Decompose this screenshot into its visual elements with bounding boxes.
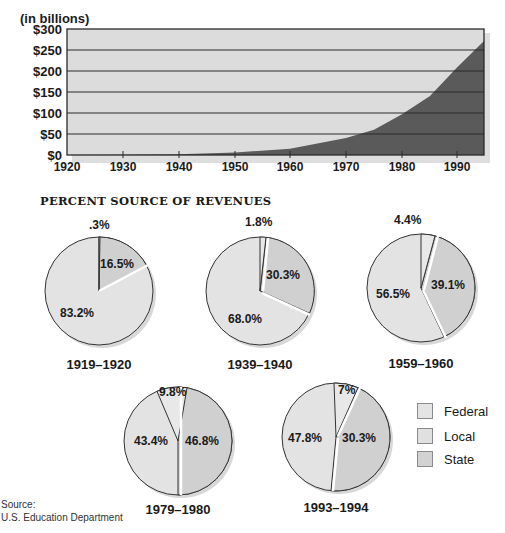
source-name: U.S. Education Department [1, 511, 123, 524]
legend-label-state: State [444, 452, 474, 467]
pie2-year: 1939–1940 [210, 357, 310, 372]
pie3-federal-label: 4.4% [394, 213, 421, 227]
source-label: Source: [1, 498, 123, 511]
pie4-state-label: 46.8% [185, 434, 219, 448]
pie3-local-label: 56.5% [376, 287, 410, 301]
pie2-federal-label: 1.8% [245, 215, 272, 229]
legend-swatch-federal [417, 403, 433, 419]
pie5-federal-label: 7% [338, 383, 355, 397]
pie5-year: 1993–1994 [286, 500, 386, 515]
pie1-year: 1919–1920 [49, 357, 149, 372]
legend-label-local: Local [444, 429, 475, 444]
pie2-local-label: 68.0% [228, 312, 262, 326]
pie2-state-label: 30.3% [266, 268, 300, 282]
source-note: Source: U.S. Education Department [1, 498, 123, 524]
pie3-state-label: 39.1% [431, 278, 465, 292]
pie5-local-label: 47.8% [288, 431, 322, 445]
legend-item-local: Local [417, 428, 475, 444]
legend-swatch-local [417, 428, 433, 444]
pie-1919-1920 [45, 237, 156, 348]
pie5-state-label: 30.3% [342, 431, 376, 445]
pie-1939-1940 [206, 237, 317, 348]
legend-label-federal: Federal [444, 404, 488, 419]
pie1-federal-label: .3% [89, 218, 110, 232]
legend-item-federal: Federal [417, 403, 488, 419]
pie4-year: 1979–1980 [128, 502, 228, 517]
pie3-year: 1959–1960 [371, 356, 471, 371]
pie4-federal-label: 9.8% [159, 385, 186, 399]
legend-swatch-state [417, 451, 433, 467]
legend-item-state: State [417, 451, 474, 467]
pie1-local-label: 83.2% [60, 306, 94, 320]
pie1-state-label: 16.5% [100, 257, 134, 271]
pie4-local-label: 43.4% [134, 434, 168, 448]
